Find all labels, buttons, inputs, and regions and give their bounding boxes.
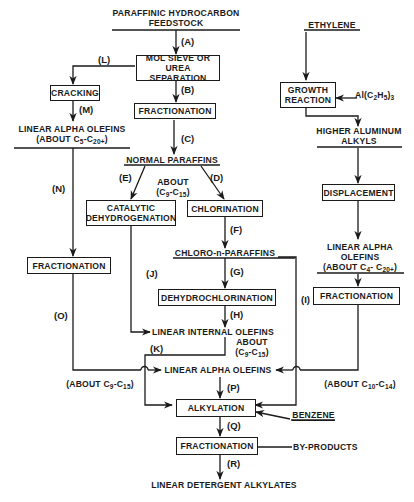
feedstock-line1: PARAFFINIC HYDROCARBON: [112, 8, 240, 18]
step-b: (B): [181, 84, 194, 95]
mol-sieve-line1: MOL SIEVE OR: [146, 53, 210, 63]
growth-reaction-box: GROWTH REACTION: [280, 82, 336, 108]
alkylation-box: ALKYLATION: [176, 399, 256, 417]
catalytic-line1: CATALYTIC: [107, 203, 155, 213]
fractionation-final-box: FRACTIONATION: [176, 437, 258, 455]
step-p: (P): [227, 382, 240, 393]
step-n: (N): [52, 183, 65, 194]
step-g: (G): [230, 266, 244, 277]
lio-range-label: ABOUT (C9-C15): [230, 337, 274, 357]
normal-paraffins-label: NORMAL PARAFFINS: [124, 155, 220, 165]
lio-label: LINEAR INTERNAL OLEFINS: [152, 327, 276, 337]
lao-right-label: LINEAR ALPHA OLEFINS (ABOUT C4- C20+): [315, 242, 405, 272]
step-h: (H): [230, 309, 243, 320]
lao-main-label: LINEAR ALPHA OLEFINS: [162, 365, 274, 375]
right-range-label: (ABOUT C10-C14): [322, 379, 398, 389]
catalytic-dehydrogenation-box: CATALYTIC DEHYDROGENATION: [86, 200, 176, 226]
ethylene-label: ETHYLENE: [302, 20, 362, 30]
by-products-label: BY-PRODUCTS: [293, 442, 359, 452]
np-range-label: ABOUT (C9-C15): [150, 177, 196, 197]
chlorination-box: CHLORINATION: [187, 200, 263, 217]
process-flow-diagram: PARAFFINIC HYDROCARBON FEEDSTOCK (A) MOL…: [0, 0, 414, 502]
lio-range-line1: ABOUT: [230, 337, 274, 347]
np-range-line1: ABOUT: [150, 177, 196, 187]
fractionation-right-box: FRACTIONATION: [313, 287, 400, 305]
benzene-label: BENZENE: [292, 410, 335, 421]
catalytic-line2: DEHYDROGENATION: [86, 213, 177, 223]
displacement-box: DISPLACEMENT: [322, 184, 395, 201]
cracking-box: CRACKING: [50, 85, 100, 101]
lao-cracking-label: LINEAR ALPHA OLEFINS (ABOUT C5-C20+): [10, 124, 134, 144]
triethylaluminum-label: Al(C2H5)3: [355, 90, 413, 100]
feedstock-label: PARAFFINIC HYDROCARBON FEEDSTOCK: [112, 8, 240, 28]
higher-al-line1: HIGHER ALUMINUM: [313, 126, 405, 136]
fractionation-1-box: FRACTIONATION: [134, 103, 216, 119]
step-i: (I): [301, 294, 310, 305]
lao-cracking-line1: LINEAR ALPHA OLEFINS: [10, 124, 134, 134]
step-r: (R): [227, 458, 240, 469]
step-m: (M): [79, 104, 93, 115]
step-f: (F): [230, 224, 242, 235]
dehydrochlorination-box: DEHYDROCHLORINATION: [158, 289, 276, 306]
step-j: (J): [146, 268, 158, 279]
lio-range-line2: (C9-C15): [230, 347, 274, 357]
higher-aluminum-alkyls-label: HIGHER ALUMINUM ALKYLS: [313, 126, 405, 146]
left-range-label: (ABOUT C9-C15): [62, 379, 138, 389]
mol-sieve-box: MOL SIEVE OR UREA SEPARATION: [136, 55, 220, 81]
step-k: (K): [150, 343, 163, 354]
mol-sieve-line2: UREA SEPARATION: [137, 63, 219, 83]
step-o: (O): [54, 310, 68, 321]
np-range-line2: (C9-C15): [150, 187, 196, 197]
lao-right-line2: OLEFINS: [315, 252, 405, 262]
lao-right-line3: (ABOUT C4- C20+): [315, 262, 405, 272]
product-label: LINEAR DETERGENT ALKYLATES: [144, 480, 304, 490]
step-l: (L): [98, 54, 110, 65]
growth-line2: REACTION: [285, 95, 331, 105]
step-e: (E): [119, 172, 132, 183]
fractionation-left-box: FRACTIONATION: [27, 257, 111, 274]
step-q: (Q): [227, 420, 241, 431]
chloro-paraffins-label: CHLORO-n-PARAFFINS: [172, 248, 278, 258]
lao-cracking-line2: (ABOUT C5-C20+): [10, 134, 134, 144]
step-c: (C): [181, 133, 194, 144]
lao-right-line1: LINEAR ALPHA: [315, 242, 405, 252]
step-a: (A): [181, 36, 194, 47]
higher-al-line2: ALKYLS: [313, 136, 405, 146]
feedstock-line2: FEEDSTOCK: [112, 18, 240, 28]
step-d: (D): [210, 172, 223, 183]
growth-line1: GROWTH: [288, 85, 328, 95]
